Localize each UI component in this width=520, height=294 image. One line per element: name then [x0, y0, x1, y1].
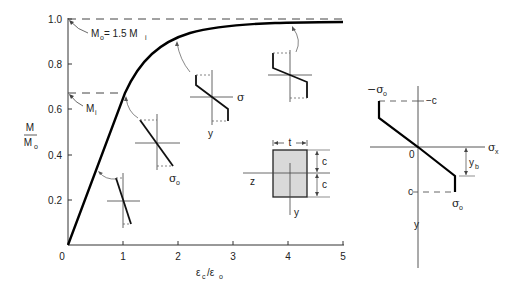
stress-inset-yield: σ o	[124, 96, 180, 186]
neg-sigma-o-label: −σ	[367, 83, 384, 96]
x-tick-5: 5	[340, 251, 346, 262]
svg-text:i: i	[145, 34, 147, 41]
c-bottom-label: c	[322, 179, 327, 190]
stress-distribution-diagram: −σ o −c 0 σ x y b c σ o y	[367, 83, 499, 268]
svg-text:o: o	[34, 143, 38, 150]
mi-label: M i	[86, 103, 97, 116]
mo-equation-label: M o = 1.5 M i	[91, 28, 147, 41]
y-tick-1.0: 1.0	[48, 14, 62, 25]
svg-text:M: M	[86, 103, 94, 114]
stress-inset-elastic-low	[98, 171, 140, 228]
svg-text:o: o	[176, 179, 180, 186]
z-axis-label: z	[250, 176, 255, 187]
yb-label: y	[469, 157, 474, 168]
stress-origin-label: 0	[409, 149, 415, 160]
width-t-label: t	[289, 137, 292, 148]
x-tick-2: 2	[175, 251, 181, 262]
svg-text:o: o	[459, 204, 463, 211]
stress-inset-partial-plastic: σ y	[175, 41, 245, 139]
origin-label: 0	[59, 251, 65, 262]
x-tick-3: 3	[230, 251, 236, 262]
svg-text:b: b	[475, 163, 479, 170]
moment-curvature-diagram: 1.0 0.8 0.6 0.4 0.2 0 1 2 3 4 5 M M o ε …	[0, 0, 520, 294]
x-axis-label: ε c /ε o	[196, 267, 223, 280]
c-label: c	[408, 186, 413, 197]
svg-text:x: x	[495, 148, 499, 155]
stress-y-label: y	[414, 219, 419, 230]
y-tick-0.4: 0.4	[48, 150, 62, 161]
svg-text:o: o	[219, 273, 223, 280]
y-axis-label: M M o	[24, 122, 38, 150]
neg-c-label: −c	[426, 95, 437, 106]
svg-text:M: M	[24, 137, 32, 148]
svg-text:= 1.5 M: = 1.5 M	[104, 28, 138, 39]
svg-text:ε: ε	[196, 267, 201, 278]
moment-curve	[68, 22, 343, 245]
stress-inset-near-plastic	[268, 26, 312, 102]
y-tick-0.2: 0.2	[48, 195, 62, 206]
section-y-label: y	[294, 207, 299, 218]
y-tick-0.6: 0.6	[48, 104, 62, 115]
svg-text:M: M	[26, 122, 34, 133]
svg-text:/ε: /ε	[207, 267, 215, 278]
svg-text:M: M	[91, 28, 99, 39]
c-top-label: c	[322, 156, 327, 167]
x-tick-4: 4	[285, 251, 291, 262]
y-tick-0.8: 0.8	[48, 59, 62, 70]
svg-text:c: c	[202, 273, 206, 280]
x-tick-1: 1	[120, 251, 126, 262]
rectangular-cross-section: t z y c c	[243, 137, 330, 218]
sigma-label: σ	[237, 91, 245, 104]
svg-text:o: o	[383, 90, 387, 97]
svg-text:i: i	[95, 109, 97, 116]
inset-y-label: y	[208, 128, 213, 139]
